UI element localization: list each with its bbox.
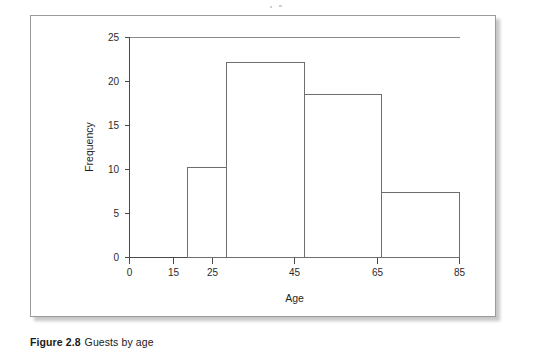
x-tick-label-65: 65	[372, 267, 384, 278]
x-tick-label-45: 45	[289, 267, 301, 278]
histogram-bar	[304, 95, 382, 258]
scan-speck-right	[279, 5, 282, 7]
figure-caption-label: Figure 2.8	[30, 336, 81, 348]
histogram-bar	[227, 62, 305, 257]
y-tick-label-5: 5	[113, 208, 119, 219]
scan-speck-left	[270, 6, 272, 8]
y-axis-title: Frequency	[83, 121, 95, 171]
x-tick-label-25: 25	[207, 267, 219, 278]
histogram-svg: 25 20 15 10 5 0 Frequency 0 15 25 45 65 …	[31, 16, 497, 318]
x-tick-label-85: 85	[454, 267, 466, 278]
histogram-bars	[188, 62, 460, 257]
figure-frame: 25 20 15 10 5 0 Frequency 0 15 25 45 65 …	[30, 15, 496, 317]
y-tick-label-20: 20	[108, 76, 120, 87]
x-tick-label-15: 15	[168, 267, 180, 278]
histogram-plot: 25 20 15 10 5 0 Frequency 0 15 25 45 65 …	[31, 16, 497, 318]
figure-caption: Figure 2.8Guests by age	[30, 336, 154, 348]
y-tick-label-10: 10	[108, 164, 120, 175]
x-tick-label-0: 0	[127, 267, 133, 278]
y-tick-label-0: 0	[113, 252, 119, 263]
y-tick-label-25: 25	[108, 32, 120, 43]
histogram-bar	[188, 168, 227, 258]
x-axis-title: Age	[285, 292, 304, 304]
y-tick-label-15: 15	[108, 120, 120, 131]
histogram-bar	[382, 192, 460, 257]
figure-caption-text: Guests by age	[85, 336, 154, 348]
